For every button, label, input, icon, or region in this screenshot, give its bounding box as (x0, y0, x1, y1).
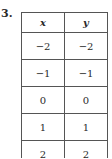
table-row: 2 2 (22, 141, 108, 159)
problem-number: 3. (1, 7, 12, 20)
cell-x: −2 (22, 33, 65, 60)
table-header-row: x y (22, 13, 108, 33)
cell-y: −2 (65, 33, 108, 60)
table-row: −2 −2 (22, 33, 108, 60)
table-row: 1 1 (22, 114, 108, 141)
cell-x: −1 (22, 60, 65, 87)
cell-y: −1 (65, 60, 108, 87)
cell-y: 1 (65, 114, 108, 141)
xy-table: x y −2 −2 −1 −1 0 0 1 1 2 2 (21, 12, 108, 158)
cell-x: 1 (22, 114, 65, 141)
cell-x: 0 (22, 87, 65, 114)
table-row: −1 −1 (22, 60, 108, 87)
cell-x: 2 (22, 141, 65, 159)
header-y: y (65, 13, 108, 33)
header-x: x (22, 13, 65, 33)
cell-y: 0 (65, 87, 108, 114)
cell-y: 2 (65, 141, 108, 159)
table-row: 0 0 (22, 87, 108, 114)
